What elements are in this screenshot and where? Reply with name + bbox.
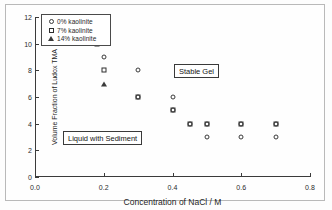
x-tick (104, 173, 105, 177)
figure-container: 0.00.20.40.60.8 024681012 Concentration … (0, 0, 332, 210)
y-tick-label: 0 (23, 174, 32, 181)
x-tick (310, 173, 311, 177)
y-tick-label: 8 (23, 67, 32, 74)
circle-marker (170, 95, 175, 100)
x-tick (173, 173, 174, 177)
x-tick-label: 0.6 (236, 184, 246, 191)
square-marker (170, 108, 175, 113)
square-marker (204, 121, 209, 126)
x-tick (241, 173, 242, 177)
square-marker (239, 121, 244, 126)
y-tick-label: 4 (23, 120, 32, 127)
square-icon (45, 28, 57, 33)
y-tick (35, 124, 39, 125)
x-tick-label: 0.8 (305, 184, 315, 191)
x-axis-label: Concentration of NaCl / M (35, 197, 310, 207)
y-tick-label: 2 (23, 147, 32, 154)
legend-item-label: 0% kaolinite (57, 18, 93, 25)
y-tick-label: 10 (23, 40, 32, 47)
circle-icon (45, 19, 57, 24)
circle-marker (101, 55, 106, 60)
square-marker (101, 68, 106, 73)
y-tick (35, 177, 39, 178)
annotation-stable-gel: Stable Gel (174, 64, 219, 78)
x-tick-label: 0.4 (167, 184, 177, 191)
square-marker (136, 95, 141, 100)
y-tick-label: 12 (23, 14, 32, 21)
triangle-marker (48, 36, 54, 41)
y-axis-label: Volume Fraction of Ludox TMA (51, 49, 58, 145)
circle-marker (239, 135, 244, 140)
y-tick (35, 97, 39, 98)
square-marker (187, 121, 192, 126)
legend-item-1[interactable]: 7% kaolinite (45, 26, 107, 34)
annotation-liquid-with-sediment: Liquid with Sediment (63, 131, 142, 145)
x-tick-label: 0.2 (99, 184, 109, 191)
y-tick (35, 44, 39, 45)
legend-item-label: 7% kaolinite (57, 27, 93, 34)
circle-marker (204, 135, 209, 140)
y-tick (35, 70, 39, 71)
y-tick (35, 17, 39, 18)
y-tick-label: 6 (23, 94, 32, 101)
circle-marker (136, 68, 141, 73)
triangle-icon (45, 36, 57, 41)
y-tick (35, 150, 39, 151)
x-tick-label: 0.0 (30, 184, 40, 191)
triangle-marker (101, 81, 107, 86)
legend-box[interactable]: 0% kaolinite7% kaolinite14% kaolinite (41, 14, 111, 46)
legend-item-label: 14% kaolinite (57, 35, 96, 42)
square-marker (273, 121, 278, 126)
circle-marker (49, 19, 54, 24)
legend-item-0[interactable]: 0% kaolinite (45, 18, 107, 26)
legend-item-2[interactable]: 14% kaolinite (45, 35, 107, 43)
square-marker (49, 28, 54, 33)
circle-marker (273, 135, 278, 140)
